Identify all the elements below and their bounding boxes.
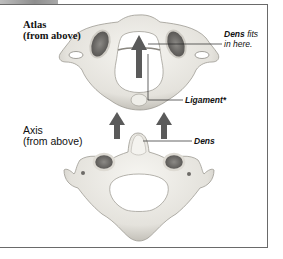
- dens-callout: Dens: [194, 136, 215, 146]
- dens-fits-callout: Dens fits in here.: [224, 29, 258, 49]
- dens-fits-bold: Dens: [224, 29, 245, 39]
- up-arrow-icon-right: [156, 112, 172, 139]
- atlas-label: Atlas (from above): [23, 19, 81, 41]
- atlas-title: Atlas: [23, 19, 81, 30]
- dens-fits-line2: in here.: [224, 39, 258, 49]
- dens-fits-rest: fits: [245, 29, 258, 39]
- up-arrow-icon-left: [109, 112, 125, 139]
- axis-bone: [64, 133, 214, 241]
- axis-label: Axis (from above): [23, 125, 83, 147]
- ligament-callout: Ligament*: [185, 95, 226, 105]
- atlas-subtitle: (from above): [23, 30, 81, 41]
- axis-subtitle: (from above): [23, 136, 83, 147]
